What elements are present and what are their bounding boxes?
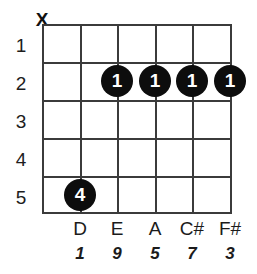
fret-number-1: 1 (8, 36, 34, 55)
fret-line-5 (42, 212, 230, 214)
string-line-4 (155, 24, 157, 214)
finger-dot-string4-fret2: 1 (139, 65, 171, 97)
finger-dot-string2-fret5: 4 (64, 179, 96, 211)
fret-number-5: 5 (8, 188, 34, 207)
finger-dot-string5-fret2: 1 (176, 65, 208, 97)
string-line-1 (42, 24, 44, 214)
fret-number-3: 3 (8, 112, 34, 131)
fret-line-2 (42, 100, 230, 102)
string-line-3 (117, 24, 119, 214)
string-line-5 (192, 24, 194, 214)
interval-string6: 3 (207, 245, 253, 262)
note-name-string6: F# (207, 219, 253, 238)
chord-diagram: 1 2 3 4 5 X 1 1 1 1 4 D E A C# F# 1 9 5 … (0, 0, 257, 274)
nut-line (42, 24, 230, 26)
fret-number-2: 2 (8, 74, 34, 93)
fret-line-3 (42, 138, 230, 140)
string-line-6 (230, 24, 232, 214)
finger-dot-string3-fret2: 1 (101, 65, 133, 97)
fret-line-1 (42, 62, 230, 64)
fret-line-4 (42, 176, 230, 178)
finger-dot-string6-fret2: 1 (214, 65, 246, 97)
fret-number-4: 4 (8, 150, 34, 169)
